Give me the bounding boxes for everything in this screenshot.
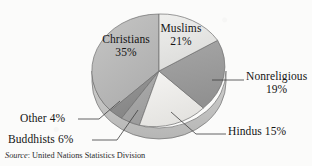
slice-label-nonreligious-pct: 19% — [246, 83, 307, 96]
slice-label-buddhists: Buddhists 6% — [8, 133, 73, 146]
slice-label-other: Other 4% — [20, 112, 65, 125]
slice-label-christians-pct: 35% — [93, 46, 159, 59]
slice-label-hindus: Hindus 15% — [228, 125, 286, 138]
slice-label-muslims: Muslims 21% — [152, 22, 210, 48]
slice-label-muslims-pct: 21% — [152, 35, 210, 48]
slice-label-christians-name: Christians — [93, 33, 159, 46]
source-label: Source — [5, 151, 28, 160]
slice-label-nonreligious-name: Nonreligious — [246, 70, 307, 83]
slice-label-nonreligious: Nonreligious 19% — [246, 70, 307, 96]
source-note: Source: United Nations Statistics Divisi… — [5, 151, 145, 160]
slice-label-christians: Christians 35% — [93, 33, 159, 59]
source-text: : United Nations Statistics Division — [28, 151, 146, 160]
pie-chart-figure: Christians 35% Muslims 21% Nonreligious … — [0, 0, 312, 166]
slice-label-muslims-name: Muslims — [152, 22, 210, 35]
